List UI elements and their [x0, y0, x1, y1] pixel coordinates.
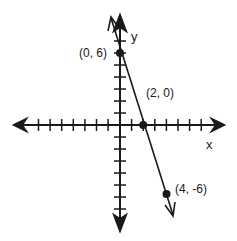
point-4-neg6 — [163, 190, 171, 198]
point-0-6 — [116, 49, 124, 57]
point-label-2-0: (2, 0) — [146, 86, 174, 100]
point-label-4-neg6: (4, -6) — [175, 182, 207, 196]
coordinate-plane: (0, 6) (2, 0) (4, -6) y x — [0, 0, 237, 241]
point-2-0 — [139, 121, 147, 129]
graphed-line — [108, 17, 175, 216]
x-axis-label: x — [206, 137, 213, 152]
y-axis-label: y — [131, 29, 138, 44]
point-label-0-6: (0, 6) — [79, 46, 107, 60]
